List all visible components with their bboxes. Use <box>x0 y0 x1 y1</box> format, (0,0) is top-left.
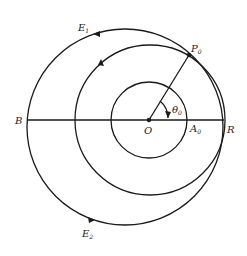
label-O: O <box>144 125 152 136</box>
radius-line <box>149 55 189 120</box>
point-O <box>147 118 151 122</box>
arrow-theta-icon <box>165 111 171 118</box>
label-P0: P0 <box>190 43 202 55</box>
arrow-middle-icon <box>98 59 104 66</box>
label-E1: E1 <box>77 22 89 34</box>
theta-arc <box>160 101 168 118</box>
arrow-e2-icon <box>88 217 95 223</box>
orbit-diagram: E1 E2 P0 θ0 B O A0 R <box>0 0 247 256</box>
label-A0: A0 <box>189 123 201 135</box>
label-R: R <box>226 124 235 135</box>
label-B: B <box>14 115 22 126</box>
label-theta0: θ0 <box>172 104 182 116</box>
label-E2: E2 <box>81 228 93 240</box>
arrow-e1-icon <box>93 31 100 37</box>
